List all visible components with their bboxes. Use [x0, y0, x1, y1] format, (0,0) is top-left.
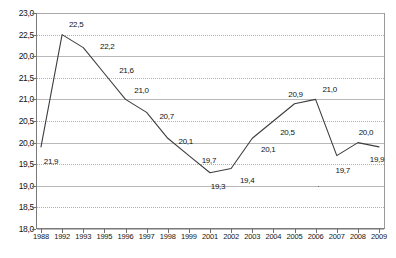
x-axis-tick-mark — [147, 229, 148, 233]
x-axis-tick-label: 1996 — [118, 232, 134, 241]
x-axis-tick-label: 1993 — [75, 232, 91, 241]
y-axis-tick-label: 21,0 — [0, 94, 34, 104]
gridline — [37, 56, 384, 57]
data-point-label: 19,4 — [240, 175, 254, 184]
x-axis-tick-mark — [358, 229, 359, 233]
x-axis-tick-mark — [83, 229, 84, 233]
line-chart: 23,022,520,021,521,020,520,019,519,018,5… — [0, 0, 396, 258]
x-axis-tick-mark — [210, 229, 211, 233]
gridline — [37, 121, 384, 122]
x-axis-tick-label: 2009 — [371, 232, 387, 241]
gridline — [37, 99, 384, 100]
y-axis-tick-label: 19,5 — [0, 159, 34, 169]
y-axis-tick-mark — [32, 207, 36, 208]
x-axis-tick-label: 1992 — [54, 232, 70, 241]
gridline — [37, 164, 384, 165]
x-axis-tick-mark — [273, 229, 274, 233]
y-axis-tick-mark — [32, 229, 36, 230]
y-axis-tick-label: 20,0 — [0, 138, 34, 148]
gridline — [37, 35, 384, 36]
x-axis-tick-label: 1999 — [181, 232, 197, 241]
data-point-label: 19,7 — [336, 165, 350, 174]
data-point-label: 20,9 — [288, 89, 302, 98]
x-axis-tick-mark — [337, 229, 338, 233]
x-axis-tick-label: 2006 — [308, 232, 324, 241]
y-axis-tick-mark — [32, 13, 36, 14]
y-axis-tick-label: 18,0 — [0, 224, 34, 234]
stray-mark — [318, 186, 319, 187]
x-axis-tick-mark — [62, 229, 63, 233]
y-axis-tick-mark — [32, 186, 36, 187]
x-axis-tick-label: 2008 — [350, 232, 366, 241]
gridline — [37, 207, 384, 208]
data-point-label: 22,5 — [69, 19, 83, 28]
y-axis-tick-mark — [32, 56, 36, 57]
y-axis-tick-label: 20,5 — [0, 116, 34, 126]
y-axis-tick-mark — [32, 164, 36, 165]
y-axis-tick-label: 21,5 — [0, 73, 34, 83]
x-axis-tick-mark — [189, 229, 190, 233]
data-point-label: 20,5 — [280, 128, 294, 137]
x-axis-tick-label: 1998 — [160, 232, 176, 241]
x-axis-tick-mark — [104, 229, 105, 233]
x-axis-tick-mark — [316, 229, 317, 233]
x-axis-tick-label: 2003 — [244, 232, 260, 241]
x-axis-tick-label: 2007 — [329, 232, 345, 241]
data-point-label: 19,7 — [202, 155, 216, 164]
gridline — [37, 78, 384, 79]
x-axis-tick-mark — [295, 229, 296, 233]
x-axis-tick-mark — [41, 229, 42, 233]
y-axis-tick-mark — [32, 121, 36, 122]
y-axis-tick-mark — [32, 143, 36, 144]
data-point-label: 20,1 — [179, 137, 193, 146]
x-axis-tick-label: 2004 — [265, 232, 281, 241]
gridline — [37, 143, 384, 144]
data-point-label: 19,3 — [211, 181, 225, 190]
x-axis-tick-mark — [252, 229, 253, 233]
y-axis-tick-mark — [32, 78, 36, 79]
x-axis-tick-mark — [379, 229, 380, 233]
x-axis-tick-mark — [168, 229, 169, 233]
data-point-label: 19,9 — [370, 154, 384, 163]
y-axis-tick-label: 18,5 — [0, 202, 34, 212]
data-point-label: 21,9 — [44, 156, 58, 165]
x-axis-tick-label: 1997 — [139, 232, 155, 241]
x-axis-tick-label: 2001 — [202, 232, 218, 241]
data-point-label: 20,7 — [159, 112, 173, 121]
y-axis-tick-mark — [32, 35, 36, 36]
data-point-label: 20,1 — [261, 145, 275, 154]
x-axis-tick-label: 2005 — [287, 232, 303, 241]
y-axis-tick-label: 20,0 — [0, 51, 34, 61]
x-axis-tick-label: 1995 — [96, 232, 112, 241]
y-axis-tick-label: 22,5 — [0, 30, 34, 40]
x-axis-tick-label: 2002 — [223, 232, 239, 241]
plot-area — [36, 13, 385, 229]
data-point-label: 21,0 — [134, 86, 148, 95]
data-point-label: 21,0 — [322, 85, 336, 94]
data-point-label: 22,2 — [100, 41, 114, 50]
x-axis-tick-label: 1988 — [33, 232, 49, 241]
data-point-label: 21,6 — [119, 66, 133, 75]
y-axis-tick-mark — [32, 99, 36, 100]
y-axis-tick-label: 23,0 — [0, 8, 34, 18]
data-point-label: 20,0 — [359, 127, 373, 136]
y-axis-tick-label: 19,0 — [0, 181, 34, 191]
x-axis-tick-mark — [231, 229, 232, 233]
gridline — [37, 13, 384, 14]
x-axis-tick-mark — [126, 229, 127, 233]
